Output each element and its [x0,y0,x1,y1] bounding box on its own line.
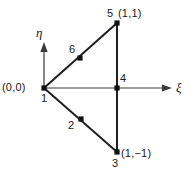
node-marker-1 [41,85,46,90]
xi-axis-label: ξ [176,81,182,94]
xi-axis-arrowhead [162,84,172,91]
node-3-coordinate-label: (1,−1) [121,148,151,159]
xi-axis [44,84,172,91]
node-1-label: 1 [41,93,47,104]
node-5-label: 5 [107,8,113,19]
node-3-label: 3 [112,158,118,169]
node-marker-2 [78,116,83,121]
node-5-coordinate-label: (1,1) [118,8,142,19]
node-marker-3 [114,149,119,154]
node-marker-6 [77,55,82,60]
node-marker-4 [114,85,119,90]
eta-axis-arrowhead [40,42,47,52]
eta-axis [40,42,47,88]
node-marker-5 [114,20,119,25]
node-4-label: 4 [120,73,126,84]
node-6-label: 6 [69,44,75,55]
diagram-canvas: η ξ (0,0) 1 2 3 (1,−1) 4 5 (1,1) 6 [0,0,195,178]
eta-axis-label: η [36,26,43,39]
diagram-vector-layer [0,0,195,178]
node-1-coordinate-label: (0,0) [2,82,26,93]
node-2-label: 2 [68,120,74,131]
